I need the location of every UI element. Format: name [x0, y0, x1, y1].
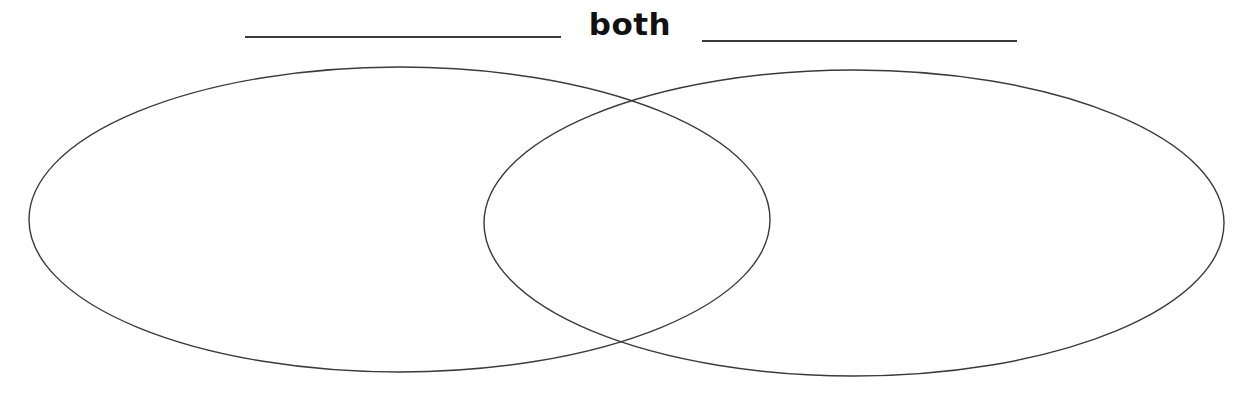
venn-diagram-worksheet: both	[0, 0, 1251, 397]
venn-ellipses	[0, 0, 1251, 397]
right-ellipse[interactable]	[484, 70, 1224, 376]
left-ellipse[interactable]	[29, 67, 770, 372]
